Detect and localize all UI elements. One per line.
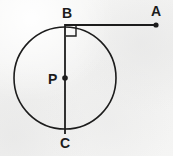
geometry-figure-canvas: A B P C bbox=[0, 0, 173, 156]
point-p-center-dot bbox=[62, 75, 68, 81]
point-label-p: P bbox=[48, 72, 58, 86]
point-label-a: A bbox=[151, 4, 161, 18]
geometry-figure-svg bbox=[0, 0, 173, 156]
point-label-b: B bbox=[62, 6, 72, 20]
point-a-dot bbox=[153, 22, 158, 27]
point-label-c: C bbox=[60, 136, 70, 150]
